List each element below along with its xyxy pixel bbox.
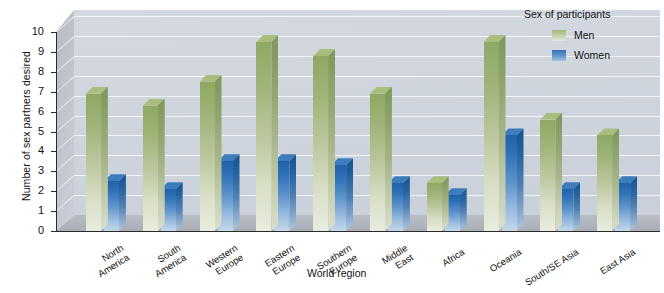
bar-front-face xyxy=(86,94,101,231)
bar-front-face xyxy=(200,82,215,231)
legend-swatch-men xyxy=(552,30,566,41)
bar-men xyxy=(540,120,555,231)
bar-side-face xyxy=(460,188,467,231)
bar-men xyxy=(143,106,158,231)
legend-label: Men xyxy=(574,29,594,41)
bar-side-face xyxy=(612,128,619,231)
bar-side-face xyxy=(403,176,410,231)
bar-side-face xyxy=(119,174,126,231)
bar-front-face xyxy=(313,56,328,231)
bar-side-face xyxy=(271,35,278,231)
bar-men xyxy=(200,82,215,231)
bar-side-face xyxy=(289,154,296,231)
legend-item: Men xyxy=(552,29,594,41)
bar-front-face xyxy=(427,183,442,231)
bar-side-face xyxy=(215,75,222,231)
bar-side-face xyxy=(385,87,392,231)
bar-chart: 012345678910 Number of sex partners desi… xyxy=(0,0,664,293)
bar-men xyxy=(597,135,612,231)
bar-men xyxy=(313,56,328,231)
bar-front-face xyxy=(484,42,499,231)
bar-men xyxy=(484,42,499,231)
bar-side-face xyxy=(555,113,562,231)
bar-front-face xyxy=(370,94,385,231)
bar-men xyxy=(86,94,101,231)
bar-side-face xyxy=(176,182,183,231)
bar-side-face xyxy=(517,128,524,231)
bar-side-face xyxy=(233,154,240,231)
bar-side-face xyxy=(442,176,449,231)
bar-side-face xyxy=(101,87,108,231)
bar-side-face xyxy=(573,182,580,231)
bar-side-face xyxy=(158,99,165,231)
bar-front-face xyxy=(540,120,555,231)
x-axis-title: World region xyxy=(307,267,366,279)
bar-men xyxy=(370,94,385,231)
bar-men xyxy=(427,183,442,231)
legend-swatch-women xyxy=(552,50,566,61)
bar-front-face xyxy=(597,135,612,231)
bar-side-face xyxy=(346,158,353,231)
legend-title: Sex of participants xyxy=(524,8,610,20)
legend-label: Women xyxy=(574,49,610,61)
bar-men xyxy=(256,42,271,231)
bar-side-face xyxy=(630,176,637,231)
legend: Sex of participants MenWomen xyxy=(524,8,664,68)
legend-item: Women xyxy=(552,49,610,61)
bar-side-face xyxy=(328,49,335,231)
bar-front-face xyxy=(143,106,158,231)
bar-side-face xyxy=(499,35,506,231)
bar-front-face xyxy=(256,42,271,231)
